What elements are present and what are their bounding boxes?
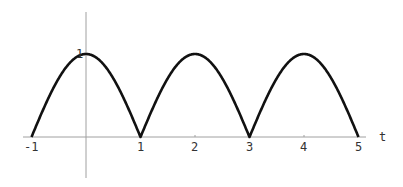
x-tick-label-2: 2 [191,140,198,154]
curve-line [32,54,359,137]
x-tick-label-3: 3 [246,140,253,154]
x-tick-label-4: 4 [300,140,307,154]
y-tick-label-1: 1 [76,47,83,61]
x-tick-label-5: 5 [355,140,362,154]
plot: 1 t -1 1 2 3 4 5 [0,0,403,187]
x-tick-label--1: -1 [24,140,38,154]
x-tick-label-1: 1 [137,140,144,154]
x-axis-label: t [379,130,386,144]
